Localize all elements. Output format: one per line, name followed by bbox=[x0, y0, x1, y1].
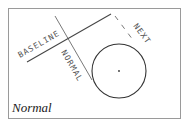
next-label: NEXT bbox=[131, 22, 152, 46]
next-dashed-line bbox=[115, 16, 133, 40]
caption: Normal bbox=[12, 100, 52, 116]
normal-label: NORMAL bbox=[59, 49, 84, 84]
circle-center-dot bbox=[118, 70, 120, 72]
